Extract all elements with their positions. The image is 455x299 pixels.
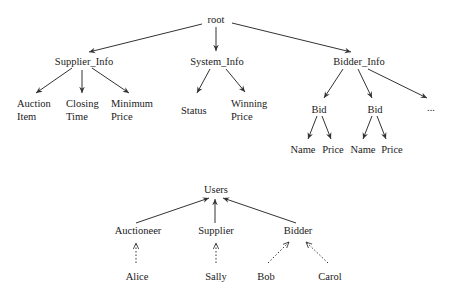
node-ellipsis: ...: [427, 101, 435, 114]
node-supplier-info: Supplier_Info: [55, 55, 113, 68]
node-auction-item: Auction Item: [17, 97, 51, 123]
label-line: Time: [66, 110, 99, 123]
node-users: Users: [204, 183, 228, 196]
node-bidder: Bidder: [284, 224, 313, 237]
edge-root-bidder: [232, 23, 351, 52]
node-bid2-name: Name: [350, 143, 375, 156]
node-status: Status: [181, 104, 207, 117]
label-line: Minimum: [111, 97, 153, 110]
node-bid2-price: Price: [381, 143, 403, 156]
node-carol: Carol: [318, 270, 341, 283]
edge-root-supplier: [89, 24, 202, 52]
node-system-info: System_Info: [190, 55, 244, 68]
node-minimum-price: Minimum Price: [111, 97, 153, 123]
node-root: root: [208, 13, 225, 26]
node-bob: Bob: [257, 270, 275, 283]
node-closing-time: Closing Time: [66, 97, 99, 123]
label-line: Price: [231, 110, 267, 123]
node-bid-1: Bid: [311, 103, 326, 116]
node-bid1-price: Price: [322, 143, 344, 156]
node-bid-2: Bid: [367, 103, 382, 116]
node-alice: Alice: [126, 270, 149, 283]
node-bid1-name: Name: [290, 143, 315, 156]
label-line: Price: [111, 110, 153, 123]
node-bidder-info: Bidder_Info: [333, 55, 384, 68]
node-auctioneer: Auctioneer: [115, 224, 162, 237]
label-line: Closing: [66, 97, 99, 110]
label-line: Item: [17, 110, 51, 123]
label-line: Winning: [231, 97, 267, 110]
node-sally: Sally: [205, 270, 227, 283]
node-winning-price: Winning Price: [231, 97, 267, 123]
label-line: Auction: [17, 97, 51, 110]
node-supplier: Supplier: [198, 224, 234, 237]
